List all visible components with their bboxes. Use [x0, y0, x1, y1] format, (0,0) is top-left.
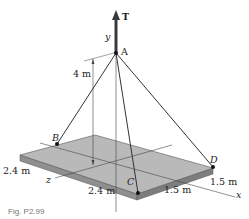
point-C-label: C [127, 176, 135, 187]
tension-label: T [122, 11, 129, 22]
front-width-label: 1.5 m [164, 184, 191, 195]
z-axis-label: z [45, 174, 52, 185]
tension-arrow-head [112, 10, 120, 20]
height-ext-line [84, 53, 114, 61]
front-depth-label: 2.4 m [88, 185, 115, 196]
cable-AB [57, 53, 116, 144]
point-D [211, 165, 215, 169]
right-width-label: 1.5 m [210, 176, 237, 187]
figure-caption: Fig. P2.99 [8, 207, 45, 216]
height-arrow-top [92, 59, 95, 64]
y-axis-label: y [104, 31, 111, 42]
height-dim-label: 4 m [73, 68, 91, 79]
x-axis-label: x [236, 189, 242, 200]
point-A [114, 51, 118, 55]
point-D-label: D [209, 154, 218, 165]
point-B-label: B [51, 132, 59, 143]
left-depth-label: 2.4 m [3, 165, 30, 176]
point-A-label: A [120, 46, 128, 57]
diagram-canvas: T y A 4 m B C D 2.4 m z 2.4 m 1.5 m 1.5 … [0, 0, 249, 219]
point-C [136, 191, 140, 195]
